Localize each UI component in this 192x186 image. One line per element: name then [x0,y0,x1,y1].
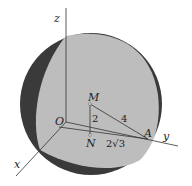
label-na-length: 2√3 [106,138,125,149]
x-axis-label: x [14,158,21,171]
label-n: N [85,137,96,150]
label-m: M [87,91,100,104]
label-mn-length: 2 [92,113,98,124]
point-n [89,134,92,137]
label-a: A [143,127,152,140]
sphere-diagram: z y x O M N A 2 4 2√3 [0,0,192,186]
z-axis-label: z [53,12,60,25]
label-o: O [55,115,64,128]
y-axis-label: y [162,130,170,143]
label-ma-length: 4 [121,113,127,124]
